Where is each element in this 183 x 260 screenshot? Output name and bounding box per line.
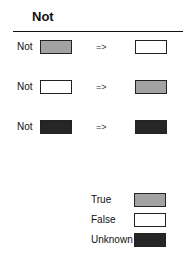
legend-false-swatch — [134, 213, 166, 227]
legend-unknown-label: Unknown — [91, 234, 133, 246]
diagram-title: Not — [32, 9, 54, 24]
legend-true-label: True — [91, 194, 111, 206]
row-2-input-false-box — [40, 80, 72, 94]
row-1-arrow: => — [96, 41, 107, 53]
row-3-arrow: => — [96, 121, 107, 133]
row-2-arrow: => — [96, 81, 107, 93]
legend-unknown-swatch — [134, 233, 166, 247]
row-3-output-unknown-box — [135, 120, 167, 134]
row-2-output-true-box — [135, 80, 167, 94]
legend-false-label: False — [91, 214, 115, 226]
row-1-output-false-box — [135, 40, 167, 54]
row-1-input-true-box — [40, 40, 72, 54]
legend-true-swatch — [134, 193, 166, 207]
row-3-operator: Not — [17, 121, 33, 133]
row-3-input-unknown-box — [40, 120, 72, 134]
row-2-operator: Not — [17, 81, 33, 93]
title-divider — [13, 31, 183, 32]
row-1-operator: Not — [17, 41, 33, 53]
